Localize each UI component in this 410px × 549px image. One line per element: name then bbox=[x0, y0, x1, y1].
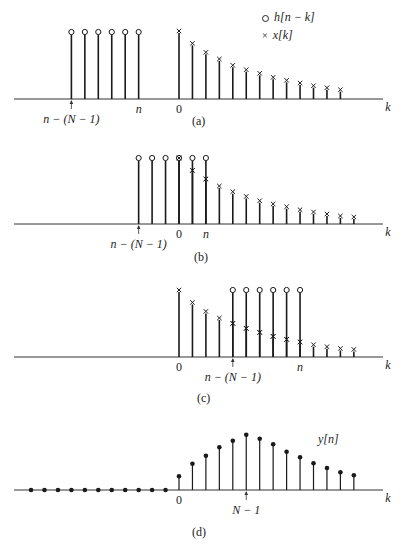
circle-marker-icon bbox=[136, 29, 141, 34]
cross-marker-icon bbox=[271, 75, 275, 79]
zero-dot bbox=[83, 488, 88, 493]
arrow-up-icon bbox=[137, 225, 141, 229]
cross-marker-icon bbox=[217, 184, 221, 188]
cross-marker-icon bbox=[352, 215, 356, 219]
tick-label: n bbox=[136, 102, 142, 116]
circle-marker-icon bbox=[150, 155, 155, 160]
zero-dot bbox=[163, 488, 168, 493]
convolution-figure: kn0n − (N − 1)k0nn − (N − 1)k0nn − (N − … bbox=[0, 0, 410, 549]
cross-marker-icon bbox=[190, 41, 194, 45]
cross-marker-icon bbox=[338, 88, 342, 92]
panel-b-caption: (b) bbox=[194, 250, 208, 265]
tick-label: 0 bbox=[176, 493, 182, 507]
y-dot bbox=[284, 449, 289, 454]
y-dot bbox=[338, 470, 343, 475]
cross-marker-icon bbox=[325, 345, 329, 349]
k-axis-label: k bbox=[385, 358, 391, 372]
legend-circle-label: h[n − k] bbox=[274, 10, 315, 24]
circle-marker-icon bbox=[271, 287, 276, 292]
cross-marker-icon bbox=[271, 202, 275, 206]
zero-dot bbox=[29, 488, 34, 493]
circle-marker-icon bbox=[82, 29, 87, 34]
arrow-up-icon bbox=[244, 491, 248, 495]
cross-marker-icon bbox=[298, 208, 302, 212]
cross-marker-icon bbox=[338, 214, 342, 218]
zero-dot bbox=[56, 488, 61, 493]
tick-label: n bbox=[297, 360, 303, 374]
tick-label: 0 bbox=[176, 102, 182, 116]
legend-cross-entry: ×x[k] bbox=[262, 26, 315, 45]
y-dot bbox=[352, 473, 357, 478]
y-dot bbox=[311, 461, 316, 466]
circle-marker-icon bbox=[69, 29, 74, 34]
zero-dot bbox=[42, 488, 47, 493]
zero-dot bbox=[69, 488, 74, 493]
y-dot bbox=[204, 453, 209, 458]
circle-marker-icon bbox=[230, 287, 235, 292]
tick-label: 0 bbox=[176, 227, 182, 241]
legend-cross-label: x[k] bbox=[273, 28, 293, 42]
k-axis-label: k bbox=[385, 100, 391, 114]
cross-marker-icon bbox=[284, 205, 288, 209]
y-dot bbox=[217, 445, 222, 450]
arrow-up-icon bbox=[231, 358, 235, 362]
circle-marker-icon bbox=[136, 155, 141, 160]
zero-dot bbox=[136, 488, 141, 493]
zero-dot bbox=[123, 488, 128, 493]
arrow-label: N − 1 bbox=[231, 503, 260, 517]
y-dot bbox=[231, 438, 236, 443]
legend: h[n − k] ×x[k] bbox=[262, 8, 315, 45]
cross-marker-icon: × bbox=[262, 30, 268, 41]
cross-marker-icon bbox=[311, 343, 315, 347]
cross-marker-icon bbox=[338, 346, 342, 350]
y-dot bbox=[271, 442, 276, 447]
cross-marker-icon bbox=[244, 194, 248, 198]
panel-c-caption: (c) bbox=[197, 391, 210, 406]
cross-marker-icon bbox=[284, 78, 288, 82]
arrow-up-icon bbox=[70, 100, 74, 104]
y-dot bbox=[257, 436, 262, 441]
panel-d-caption: (d) bbox=[192, 525, 206, 540]
cross-marker-icon bbox=[298, 81, 302, 85]
circle-marker-icon bbox=[96, 29, 101, 34]
cross-marker-icon bbox=[190, 300, 194, 304]
zero-dot bbox=[150, 488, 155, 493]
circle-marker-icon bbox=[190, 155, 195, 160]
cross-marker-icon bbox=[244, 68, 248, 72]
cross-marker-icon bbox=[177, 29, 181, 33]
cross-marker-icon bbox=[258, 199, 262, 203]
cross-marker-icon bbox=[204, 309, 208, 313]
circle-marker-icon bbox=[297, 287, 302, 292]
arrow-label: n − (N − 1) bbox=[111, 237, 167, 251]
tick-label: n bbox=[203, 227, 209, 241]
cross-marker-icon bbox=[325, 86, 329, 90]
cross-marker-icon bbox=[325, 212, 329, 216]
cross-marker-icon bbox=[204, 50, 208, 54]
arrow-label: n − (N − 1) bbox=[43, 112, 99, 126]
legend-circle-entry: h[n − k] bbox=[262, 8, 315, 26]
k-axis-label: k bbox=[385, 491, 391, 505]
cross-marker-icon bbox=[231, 63, 235, 67]
circle-marker-icon bbox=[257, 287, 262, 292]
circle-marker-icon bbox=[262, 15, 269, 22]
circle-marker-icon bbox=[244, 287, 249, 292]
tick-label: 0 bbox=[176, 360, 182, 374]
cross-marker-icon bbox=[177, 288, 181, 292]
cross-marker-icon bbox=[217, 57, 221, 61]
circle-marker-icon bbox=[109, 29, 114, 34]
cross-marker-icon bbox=[231, 190, 235, 194]
y-dot bbox=[190, 461, 195, 466]
cross-marker-icon bbox=[258, 71, 262, 75]
y-dot bbox=[177, 474, 182, 479]
y-series-label: y[n] bbox=[318, 432, 339, 447]
circle-marker-icon bbox=[203, 155, 208, 160]
y-dot bbox=[298, 455, 303, 460]
cross-marker-icon bbox=[352, 347, 356, 351]
arrow-label: n − (N − 1) bbox=[205, 370, 261, 384]
circle-marker-icon bbox=[163, 155, 168, 160]
panel-a-caption: (a) bbox=[192, 114, 205, 129]
y-dot bbox=[244, 432, 249, 437]
cross-marker-icon bbox=[311, 84, 315, 88]
y-dot bbox=[325, 466, 330, 471]
cross-marker-icon bbox=[311, 210, 315, 214]
